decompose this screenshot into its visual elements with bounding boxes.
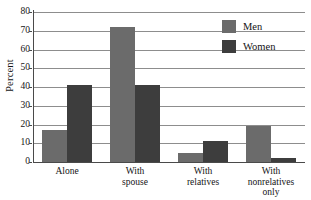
x-axis-label-line: Alone (33, 166, 101, 177)
x-axis-labels: AloneWithspouseWithrelativesWithnonrelat… (33, 166, 305, 200)
x-axis-label-line: With (169, 166, 237, 177)
y-axis-tick-mark (29, 12, 32, 13)
legend: MenWomen (222, 16, 308, 56)
bar-women-3 (271, 158, 296, 162)
women-swatch (222, 40, 236, 53)
x-axis-label: Withrelatives (169, 166, 237, 187)
bar-men-0 (42, 130, 67, 162)
y-axis-tick-mark (29, 125, 32, 126)
y-axis-tick-label: 80 (4, 7, 30, 17)
bar-men-2 (178, 153, 203, 162)
y-axis-tick-mark (29, 162, 32, 163)
y-axis-tick-mark (29, 87, 32, 88)
bar-men-3 (246, 126, 271, 162)
bar-women-2 (203, 141, 228, 162)
x-axis-label: Withnonrelativesonly (237, 166, 305, 198)
y-axis-tick-label: 10 (4, 138, 30, 148)
y-axis-tick-mark (29, 143, 32, 144)
y-axis-tick-label: 40 (4, 82, 30, 92)
y-axis-tick-mark (29, 31, 32, 32)
y-axis-tick-label: 60 (4, 45, 30, 55)
bar-chart: Percent 80706050403020100 AloneWithspous… (0, 0, 311, 200)
y-axis-tick-label: 20 (4, 120, 30, 130)
legend-label: Men (243, 21, 262, 32)
x-axis-label: Withspouse (101, 166, 169, 187)
x-axis-label-line: nonrelatives (237, 177, 305, 188)
y-axis-tick-label: 30 (4, 101, 30, 111)
x-axis-label-line: With (237, 166, 305, 177)
bar-men-1 (110, 27, 135, 162)
x-axis-label-line: only (237, 187, 305, 198)
x-axis-label: Alone (33, 166, 101, 177)
bar-women-1 (135, 85, 160, 162)
x-axis-label-line: spouse (101, 177, 169, 188)
y-axis-tick-mark (29, 50, 32, 51)
bar-women-0 (67, 85, 92, 162)
x-axis-label-line: With (101, 166, 169, 177)
y-axis-tick-label: 0 (4, 157, 30, 167)
y-axis-tick-mark (29, 68, 32, 69)
x-axis-label-line: relatives (169, 177, 237, 188)
y-axis-tick-label: 50 (4, 63, 30, 73)
y-axis-tick-label: 70 (4, 26, 30, 36)
legend-item-men: Men (222, 16, 308, 36)
legend-item-women: Women (222, 36, 308, 56)
legend-label: Women (243, 41, 275, 52)
y-axis-tick-labels: 80706050403020100 (0, 12, 30, 163)
y-axis-tick-mark (29, 106, 32, 107)
men-swatch (222, 20, 236, 33)
